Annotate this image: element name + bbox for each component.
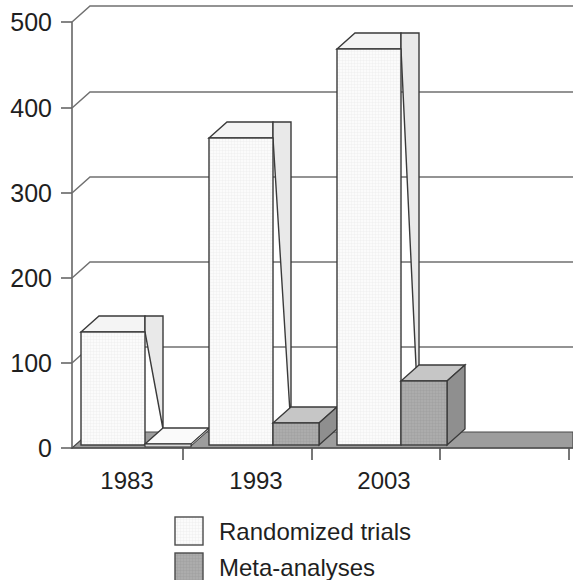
bar-front-face	[401, 381, 447, 445]
chart-canvas: 500 400 300 200 100 0	[0, 0, 573, 580]
legend-label-randomized-trials: Randomized trials	[219, 518, 411, 545]
y-tick-label-0: 0	[38, 434, 52, 462]
x-axis-category-labels: 1983 1993 2003	[100, 467, 410, 494]
gray-swatch-icon	[175, 553, 203, 580]
bar-front-face	[273, 423, 319, 445]
bar-front-face	[337, 49, 401, 445]
x-category-label-1983: 1983	[100, 467, 153, 494]
bar-front-face	[145, 444, 191, 447]
bar-front-face	[209, 138, 273, 445]
x-category-label-2003: 2003	[357, 467, 410, 494]
white-swatch-icon	[175, 517, 203, 545]
x-category-label-1993: 1993	[229, 467, 282, 494]
y-tick-label-500: 500	[10, 8, 52, 36]
y-tick-label-100: 100	[10, 349, 52, 377]
y-tick-label-300: 300	[10, 179, 52, 207]
bar-chart: 500 400 300 200 100 0	[0, 0, 573, 580]
bar-meta-analyses-2003[interactable]	[401, 365, 465, 445]
legend-label-meta-analyses: Meta-analyses	[219, 554, 375, 580]
y-tick-label-200: 200	[10, 264, 52, 292]
bar-front-face	[81, 332, 145, 445]
y-tick-label-400: 400	[10, 94, 52, 122]
